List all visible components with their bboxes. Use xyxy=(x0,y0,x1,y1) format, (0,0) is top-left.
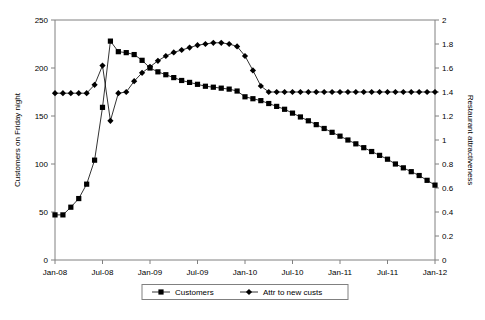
legend-label: Attr to new custs xyxy=(263,288,322,297)
marker-diamond xyxy=(369,89,375,95)
marker-square xyxy=(409,169,414,174)
marker-square xyxy=(84,182,89,187)
marker-diamond xyxy=(274,89,280,95)
legend-marker-square xyxy=(158,289,163,294)
marker-square xyxy=(132,52,137,57)
marker-diamond xyxy=(52,90,58,96)
marker-diamond xyxy=(76,90,82,96)
right-axis-tick-label: 0 xyxy=(442,256,447,265)
marker-diamond xyxy=(305,89,311,95)
marker-square xyxy=(401,165,406,170)
marker-diamond xyxy=(337,89,343,95)
marker-square xyxy=(211,85,216,90)
marker-square xyxy=(155,69,160,74)
x-axis-tick-label: Jul-08 xyxy=(92,268,114,277)
marker-square xyxy=(60,212,65,217)
marker-square xyxy=(266,101,271,106)
right-axis-tick-label: 0.8 xyxy=(442,160,454,169)
marker-square xyxy=(203,84,208,89)
marker-square xyxy=(306,118,311,123)
x-axis-tick-label: Jan-12 xyxy=(423,268,448,277)
marker-square xyxy=(345,137,350,142)
marker-square xyxy=(393,161,398,166)
marker-square xyxy=(337,134,342,139)
marker-square xyxy=(369,149,374,154)
legend-label: Customers xyxy=(175,288,214,297)
left-axis-tick-label: 50 xyxy=(39,208,48,217)
marker-diamond xyxy=(99,63,105,69)
marker-square xyxy=(242,94,247,99)
right-axis-tick-label: 2 xyxy=(442,16,447,25)
marker-diamond xyxy=(297,89,303,95)
marker-square xyxy=(322,126,327,131)
marker-square xyxy=(108,39,113,44)
x-axis-tick-label: Jul-09 xyxy=(187,268,209,277)
marker-diamond xyxy=(179,47,185,53)
marker-diamond xyxy=(329,89,335,95)
marker-diamond xyxy=(384,89,390,95)
x-axis-tick-label: Jul-10 xyxy=(282,268,304,277)
right-axis-tick-label: 0.4 xyxy=(442,208,454,217)
marker-square xyxy=(424,178,429,183)
marker-diamond xyxy=(123,89,129,95)
marker-diamond xyxy=(313,89,319,95)
marker-square xyxy=(163,72,168,77)
marker-diamond xyxy=(353,89,359,95)
x-axis-tick-label: Jan-08 xyxy=(43,268,68,277)
marker-diamond xyxy=(68,90,74,96)
right-axis-tick-label: 1.8 xyxy=(442,40,454,49)
marker-diamond xyxy=(424,89,430,95)
marker-diamond xyxy=(361,89,367,95)
marker-square xyxy=(92,158,97,163)
left-axis-tick-label: 0 xyxy=(44,256,49,265)
marker-square xyxy=(179,78,184,83)
marker-diamond xyxy=(266,89,272,95)
x-axis-tick-label: Jan-11 xyxy=(328,268,352,277)
marker-diamond xyxy=(250,67,256,73)
marker-diamond xyxy=(155,58,161,64)
marker-square xyxy=(100,105,105,110)
x-axis-tick-label: Jan-09 xyxy=(138,268,163,277)
marker-diamond xyxy=(258,83,264,89)
left-axis-tick-label: 250 xyxy=(35,16,49,25)
marker-square xyxy=(195,82,200,87)
marker-square xyxy=(361,145,366,150)
marker-square xyxy=(187,80,192,85)
right-axis-tick-label: 1.4 xyxy=(442,88,454,97)
marker-diamond xyxy=(218,40,224,46)
marker-diamond xyxy=(210,40,216,46)
marker-diamond xyxy=(432,89,438,95)
marker-square xyxy=(52,212,57,217)
right-axis-tick-label: 0.2 xyxy=(442,232,454,241)
chart-container: 05010015020025000.20.40.60.811.21.41.61.… xyxy=(0,0,485,320)
x-axis-tick-label: Jan-10 xyxy=(233,268,258,277)
marker-square xyxy=(314,122,319,127)
marker-diamond xyxy=(163,53,169,59)
series-attr-to-new-custs xyxy=(52,40,438,124)
marker-diamond xyxy=(392,89,398,95)
marker-square xyxy=(76,196,81,201)
marker-square xyxy=(116,49,121,54)
series-path xyxy=(55,41,435,215)
marker-square xyxy=(68,205,73,210)
marker-square xyxy=(227,87,232,92)
marker-diamond xyxy=(345,89,351,95)
marker-square xyxy=(139,58,144,63)
marker-square xyxy=(219,86,224,91)
marker-square xyxy=(432,183,437,188)
y-axis-title: Customers on Friday night xyxy=(13,92,22,187)
right-axis-tick-label: 0.6 xyxy=(442,184,454,193)
marker-diamond xyxy=(416,89,422,95)
marker-diamond xyxy=(400,89,406,95)
x-axis-tick-label: Jul-11 xyxy=(377,268,399,277)
marker-diamond xyxy=(321,89,327,95)
left-axis-tick-label: 200 xyxy=(35,64,49,73)
marker-diamond xyxy=(202,41,208,47)
marker-square xyxy=(353,141,358,146)
marker-square xyxy=(124,50,129,55)
marker-diamond xyxy=(171,49,177,55)
marker-diamond xyxy=(281,89,287,95)
right-axis-tick-label: 1 xyxy=(442,136,447,145)
marker-diamond xyxy=(289,89,295,95)
marker-square xyxy=(385,157,390,162)
